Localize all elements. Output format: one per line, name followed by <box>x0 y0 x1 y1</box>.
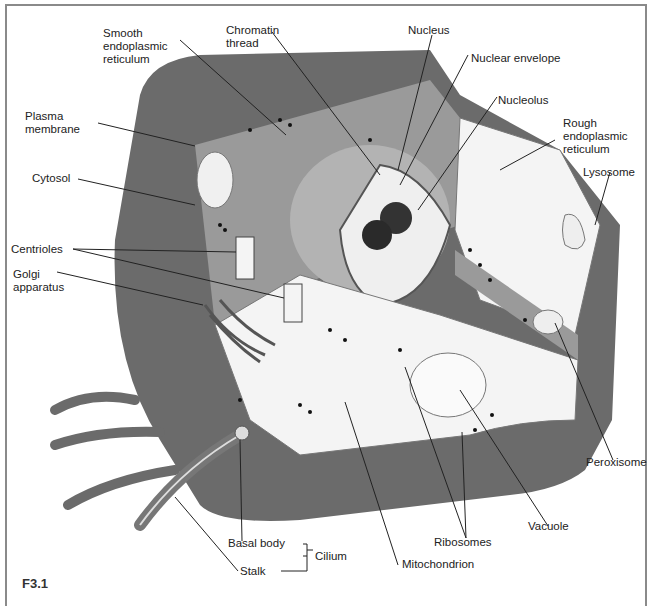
cilium-projection-1 <box>55 397 135 410</box>
label-cilium: Cilium <box>315 550 347 563</box>
centriole-1 <box>236 237 254 279</box>
label-stalk: Stalk <box>240 565 266 578</box>
label-lysosome: Lysosome <box>583 166 635 179</box>
label-peroxisome: Peroxisome <box>586 456 647 469</box>
label-centrioles: Centrioles <box>11 243 63 256</box>
centriole-2 <box>284 284 302 322</box>
label-golgi-apparatus: Golgi apparatus <box>13 268 64 294</box>
vesicle <box>197 152 233 208</box>
label-nucleolus: Nucleolus <box>498 94 549 107</box>
label-ribosomes: Ribosomes <box>434 536 492 549</box>
label-rough-er: Rough endoplasmic reticulum <box>563 117 628 156</box>
figure-number: F3.1 <box>22 576 48 591</box>
cilium-projection-2 <box>55 432 160 445</box>
vacuole <box>410 353 486 417</box>
nucleolus-2 <box>362 220 392 250</box>
label-plasma-membrane: Plasma membrane <box>25 110 80 136</box>
label-cytosol: Cytosol <box>32 172 70 185</box>
label-nuclear-envelope: Nuclear envelope <box>471 52 561 65</box>
label-vacuole: Vacuole <box>528 520 569 533</box>
label-nucleus: Nucleus <box>408 24 450 37</box>
label-basal-body: Basal body <box>228 537 285 550</box>
basal-body <box>235 426 249 440</box>
label-chromatin-thread: Chromatin thread <box>226 24 279 50</box>
label-mitochondrion: Mitochondrion <box>402 558 474 571</box>
label-smooth-er: Smooth endoplasmic reticulum <box>103 27 168 66</box>
